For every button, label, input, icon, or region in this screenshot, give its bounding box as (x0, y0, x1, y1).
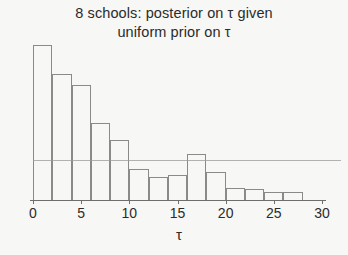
chart-title-line-1: 8 schools: posterior on τ given (0, 4, 348, 23)
histogram-bar (168, 175, 187, 200)
x-axis-tick (322, 200, 323, 204)
x-axis-tick-label: 30 (314, 205, 330, 221)
x-axis-tick-label: 20 (218, 205, 234, 221)
horizontal-reference-line (33, 160, 341, 161)
histogram-bar (52, 74, 71, 200)
x-axis-tick (33, 200, 34, 204)
histogram-bar (129, 169, 148, 200)
histogram-bar (33, 45, 52, 200)
chart-title: 8 schools: posterior on τ given uniform … (0, 4, 348, 42)
histogram-bar (91, 123, 110, 201)
x-axis-tick-label: 10 (122, 205, 138, 221)
x-axis-tick-label: 25 (266, 205, 282, 221)
histogram-bar (72, 85, 91, 200)
x-axis-tick (274, 200, 275, 204)
histogram-bar (149, 177, 168, 200)
histogram-bar (110, 140, 129, 200)
histogram-figure: 8 schools: posterior on τ given uniform … (0, 0, 348, 255)
x-axis-tick (81, 200, 82, 204)
x-axis-label: τ (0, 226, 348, 243)
chart-title-line-2: uniform prior on τ (0, 23, 348, 42)
x-axis-tick-label: 5 (77, 205, 85, 221)
histogram-bar (245, 189, 264, 200)
x-axis-tick-label: 0 (29, 205, 37, 221)
x-axis-tick (178, 200, 179, 204)
x-axis-tick (129, 200, 130, 204)
histogram-bar (206, 172, 225, 200)
plot-area (33, 45, 322, 200)
x-axis-tick-label: 15 (170, 205, 186, 221)
x-axis-tick (226, 200, 227, 204)
x-axis-label-text: τ (176, 226, 182, 243)
histogram-bar (264, 192, 283, 200)
histogram-bar (283, 192, 302, 200)
histogram-bar (226, 188, 245, 200)
